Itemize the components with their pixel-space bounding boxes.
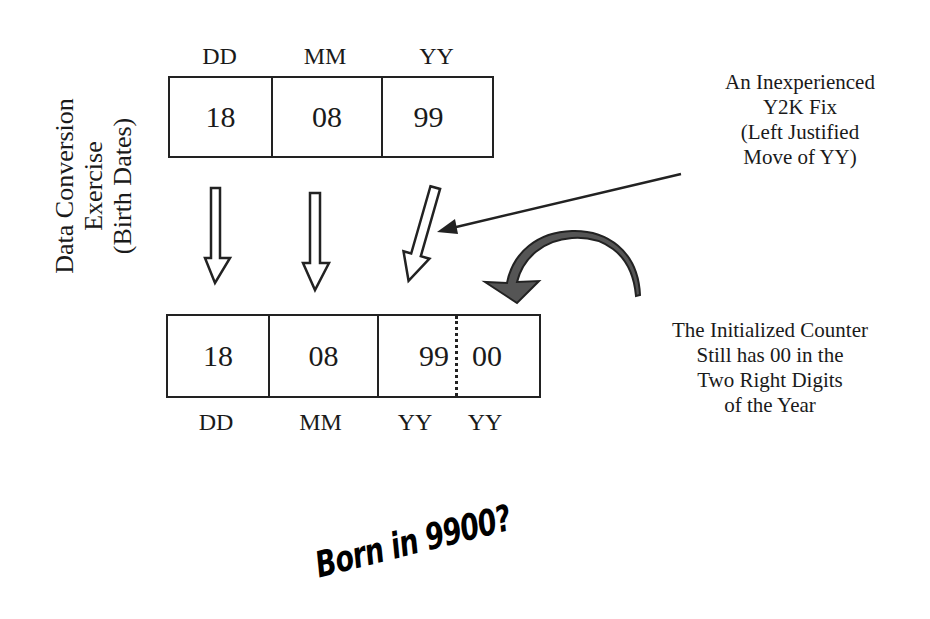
converted-year-high-digits: 99 [379, 316, 455, 396]
bottom-footer-dd: DD [166, 410, 266, 434]
converted-day-field: 18 [168, 316, 268, 396]
converted-month-field: 08 [268, 316, 377, 396]
callout-counter-line-3: Two Right Digits [630, 368, 910, 393]
callout-counter-line-4: of the Year [630, 393, 910, 418]
callout-counter-line-1: The Initialized Counter [630, 318, 910, 343]
callout-counter-line-2: Still has 00 in the [630, 343, 910, 368]
bottom-footer-yy-low: YY [455, 410, 515, 434]
converted-year-low-value: 00 [472, 339, 502, 373]
initialized-counter-callout: The Initialized Counter Still has 00 in … [630, 318, 910, 418]
converted-year-field: 99 00 [377, 316, 539, 396]
down-arrow-month-icon [303, 193, 329, 290]
callout-pointer-arrow-icon [437, 174, 681, 234]
converted-year-high-value: 99 [419, 339, 449, 373]
converted-month-value: 08 [309, 339, 339, 373]
converted-date-record: 18 08 99 00 [166, 314, 541, 398]
converted-day-value: 18 [203, 339, 233, 373]
bottom-footer-yy-high: YY [385, 410, 445, 434]
bottom-footer-mm: MM [266, 410, 375, 434]
converted-year-low-digits: 00 [458, 316, 539, 396]
slanted-arrow-year-icon [396, 184, 449, 285]
curved-return-arrow-icon [485, 231, 640, 303]
down-arrow-day-icon [205, 188, 230, 283]
